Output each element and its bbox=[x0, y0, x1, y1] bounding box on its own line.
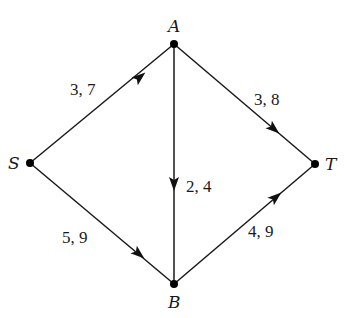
edge-a-b: 2, 4 bbox=[169, 44, 212, 284]
node-dot-icon bbox=[170, 280, 178, 288]
edge-label-s-a: 3, 7 bbox=[70, 80, 96, 99]
node-dot-icon bbox=[170, 40, 178, 48]
edge-label-a-t: 3, 8 bbox=[254, 90, 280, 109]
edge-s-b: 5, 9 bbox=[30, 163, 174, 284]
node-a: A bbox=[166, 16, 180, 48]
node-label-s: S bbox=[8, 153, 20, 173]
edge-s-a: 3, 7 bbox=[30, 44, 174, 163]
node-dot-icon bbox=[26, 159, 34, 167]
node-dot-icon bbox=[311, 160, 319, 168]
edge-label-s-b: 5, 9 bbox=[62, 228, 88, 247]
edge-label-a-b: 2, 4 bbox=[186, 177, 212, 196]
flow-network-diagram: 3, 7 3, 8 2, 4 5, 9 4, 9 bbox=[0, 0, 347, 318]
node-label-a: A bbox=[166, 16, 180, 36]
nodes: S A B T bbox=[8, 16, 338, 312]
edge-label-b-t: 4, 9 bbox=[248, 222, 274, 241]
node-t: T bbox=[311, 154, 338, 174]
node-label-b: B bbox=[167, 292, 181, 312]
edge-a-t: 3, 8 bbox=[174, 44, 315, 164]
node-b: B bbox=[167, 280, 181, 312]
edges: 3, 7 3, 8 2, 4 5, 9 4, 9 bbox=[30, 44, 315, 284]
node-s: S bbox=[8, 153, 34, 173]
node-label-t: T bbox=[325, 154, 338, 174]
